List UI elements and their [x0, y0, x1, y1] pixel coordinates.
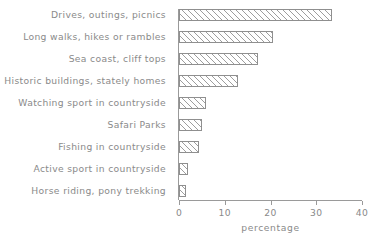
category-label: Active sport in countryside [33, 163, 166, 175]
bar [179, 163, 188, 175]
bar [179, 141, 199, 153]
horizontal-bar-chart: Drives, outings, picnicsLong walks, hike… [0, 0, 378, 244]
x-axis-tick-label: 30 [301, 207, 331, 218]
category-label: Long walks, hikes or rambles [23, 31, 166, 43]
category-axis-labels: Drives, outings, picnicsLong walks, hike… [0, 9, 170, 199]
bar [179, 9, 332, 21]
x-axis: percentage 010203040 [179, 200, 362, 244]
category-label: Safari Parks [108, 119, 166, 131]
category-label: Horse riding, pony trekking [31, 185, 166, 197]
bar [179, 75, 238, 87]
x-axis-tick-label: 0 [164, 207, 194, 218]
x-axis-tick [271, 201, 272, 205]
bar [179, 185, 186, 197]
bar [179, 119, 202, 131]
x-axis-tick [362, 201, 363, 205]
x-axis-tick [316, 201, 317, 205]
category-label: Fishing in countryside [58, 141, 166, 153]
x-axis-tick [179, 201, 180, 205]
x-axis-tick [225, 201, 226, 205]
bar [179, 97, 206, 109]
x-axis-title: percentage [179, 222, 362, 233]
category-label: Sea coast, cliff tops [69, 53, 166, 65]
x-axis-tick-label: 20 [256, 207, 286, 218]
bar [179, 53, 258, 65]
category-label: Historic buildings, stately homes [4, 75, 166, 87]
bar [179, 31, 273, 43]
plot-area [179, 9, 362, 199]
x-axis-tick-label: 40 [347, 207, 377, 218]
category-label: Drives, outings, picnics [51, 9, 166, 21]
x-axis-tick-label: 10 [210, 207, 240, 218]
category-label: Watching sport in countryside [18, 97, 166, 109]
